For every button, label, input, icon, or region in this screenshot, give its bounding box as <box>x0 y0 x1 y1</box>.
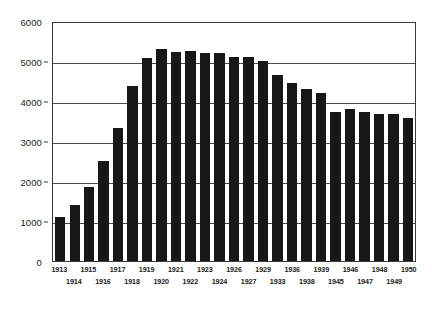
x-tick-label: 1924 <box>212 277 228 286</box>
bar-chart-figure: 0100020003000400050006000 19131914191519… <box>0 0 432 326</box>
x-tick-label: 1926 <box>226 265 242 274</box>
x-tick-label: 1939 <box>314 265 330 274</box>
bar[interactable] <box>84 187 94 261</box>
bar[interactable] <box>113 128 123 261</box>
x-tick-slot: 1918 <box>125 264 140 304</box>
x-tick-slot: 1950 <box>401 264 416 304</box>
x-tick-slot: 1926 <box>227 264 242 304</box>
y-tick-label: 3000 <box>20 137 42 148</box>
bar-slot <box>343 23 357 261</box>
bar[interactable] <box>156 49 166 261</box>
x-tick-slot: 1922 <box>183 264 198 304</box>
x-tick-label: 1913 <box>51 265 67 274</box>
x-tick-label: 1914 <box>66 277 82 286</box>
bar-slot <box>53 23 67 261</box>
bar-slot <box>140 23 154 261</box>
x-tick-label: 1929 <box>255 265 271 274</box>
bar[interactable] <box>171 52 181 261</box>
x-tick-label: 1948 <box>372 265 388 274</box>
bar[interactable] <box>345 109 355 261</box>
x-tick-label: 1922 <box>183 277 199 286</box>
x-tick-slot: 1936 <box>285 264 300 304</box>
bar[interactable] <box>229 57 239 261</box>
x-tick-label: 1950 <box>401 265 417 274</box>
bar-slot <box>183 23 197 261</box>
bar[interactable] <box>243 57 253 261</box>
x-tick-slot: 1949 <box>387 264 402 304</box>
x-tick-slot: 1938 <box>300 264 315 304</box>
bar[interactable] <box>272 75 282 261</box>
bar[interactable] <box>301 89 311 261</box>
bar-slot <box>386 23 400 261</box>
y-tick-label: 2000 <box>20 177 42 188</box>
bar-slot <box>372 23 386 261</box>
x-tick-slot: 1927 <box>241 264 256 304</box>
x-tick-label: 1919 <box>139 265 155 274</box>
bar[interactable] <box>316 93 326 261</box>
bar-slot <box>125 23 139 261</box>
bar[interactable] <box>70 205 80 261</box>
bar-slot <box>270 23 284 261</box>
bar-slot <box>357 23 371 261</box>
x-tick-label: 1936 <box>284 265 300 274</box>
bar[interactable] <box>330 112 340 261</box>
bar[interactable] <box>258 61 268 261</box>
bar[interactable] <box>142 58 152 261</box>
plot-area <box>52 22 416 262</box>
x-tick-label: 1917 <box>110 265 126 274</box>
x-tick-label: 1915 <box>81 265 97 274</box>
x-tick-slot: 1920 <box>154 264 169 304</box>
x-tick-label: 1938 <box>299 277 315 286</box>
x-tick-slot: 1924 <box>212 264 227 304</box>
bar[interactable] <box>98 161 108 261</box>
bar-slot <box>169 23 183 261</box>
bar-slot <box>256 23 270 261</box>
x-tick-slot: 1923 <box>198 264 213 304</box>
x-tick-slot: 1947 <box>358 264 373 304</box>
x-tick-slot: 1914 <box>67 264 82 304</box>
bar-slot <box>212 23 226 261</box>
x-tick-label: 1920 <box>153 277 169 286</box>
bar[interactable] <box>359 112 369 261</box>
y-tick-mark <box>44 222 48 223</box>
bar[interactable] <box>127 86 137 261</box>
bar-slot <box>82 23 96 261</box>
x-tick-slot: 1946 <box>343 264 358 304</box>
y-tick-label: 5000 <box>20 57 42 68</box>
x-tick-slot: 1919 <box>139 264 154 304</box>
y-tick-mark <box>44 182 48 183</box>
x-tick-slot: 1948 <box>372 264 387 304</box>
y-axis: 0100020003000400050006000 <box>0 22 48 262</box>
y-tick-label: 4000 <box>20 97 42 108</box>
x-tick-slot: 1945 <box>329 264 344 304</box>
bar[interactable] <box>185 51 195 261</box>
bar[interactable] <box>388 114 398 261</box>
bar-slot <box>111 23 125 261</box>
x-tick-label: 1916 <box>95 277 111 286</box>
bar[interactable] <box>287 83 297 261</box>
bar[interactable] <box>374 114 384 261</box>
x-tick-label: 1918 <box>124 277 140 286</box>
x-axis: 1913191419151916191719181919192019211922… <box>52 264 416 304</box>
bar[interactable] <box>200 53 210 261</box>
x-tick-label: 1949 <box>386 277 402 286</box>
x-tick-slot: 1917 <box>110 264 125 304</box>
x-tick-label: 1946 <box>343 265 359 274</box>
x-tick-label: 1933 <box>270 277 286 286</box>
y-tick-mark <box>44 62 48 63</box>
x-tick-slot: 1921 <box>168 264 183 304</box>
bar-slot <box>299 23 313 261</box>
bar-slot <box>241 23 255 261</box>
y-tick-mark <box>44 142 48 143</box>
x-tick-slot: 1933 <box>270 264 285 304</box>
bar[interactable] <box>55 217 65 261</box>
x-tick-slot: 1939 <box>314 264 329 304</box>
bar-slot <box>96 23 110 261</box>
bars-container <box>53 23 415 261</box>
bar[interactable] <box>403 118 413 261</box>
x-tick-label: 1921 <box>168 265 184 274</box>
x-tick-slot: 1929 <box>256 264 271 304</box>
bar-slot <box>67 23 81 261</box>
bar-slot <box>198 23 212 261</box>
bar[interactable] <box>214 53 224 261</box>
